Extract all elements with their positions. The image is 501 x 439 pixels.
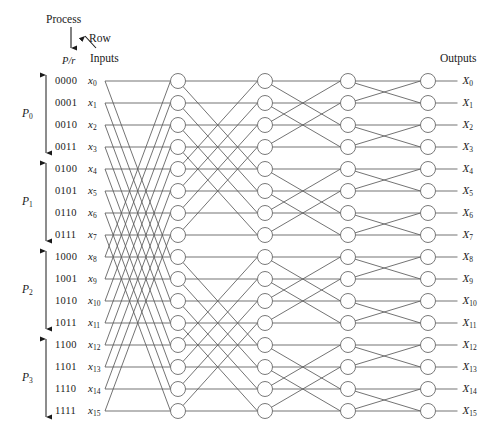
output-index: 11 (469, 321, 476, 330)
switch-node-s1-r1 (258, 96, 273, 111)
switch-node-s0-r9 (171, 272, 186, 287)
input-index: 10 (93, 299, 101, 308)
switch-node-s3-r12 (421, 338, 436, 353)
row-bits-0: 0000 (55, 76, 77, 87)
output-index: 0 (469, 79, 473, 88)
output-label-13: X13 (463, 361, 477, 374)
output-index: 10 (469, 299, 477, 308)
switch-node-s0-r6 (171, 206, 186, 221)
switch-node-s0-r2 (171, 118, 186, 133)
output-index: 5 (469, 189, 473, 198)
switch-node-s1-r9 (258, 272, 273, 287)
switch-node-s1-r5 (258, 184, 273, 199)
switch-node-s0-r15 (171, 404, 186, 419)
output-index: 6 (469, 211, 473, 220)
row-bits-7: 0111 (55, 230, 76, 241)
switch-node-s3-r8 (421, 250, 436, 265)
switch-node-s0-r0 (171, 74, 186, 89)
output-index: 3 (469, 145, 473, 154)
output-label-15: X15 (463, 405, 477, 418)
output-index: 8 (469, 255, 473, 264)
outputs-header: Outputs (440, 53, 476, 65)
output-label-14: X14 (463, 383, 477, 396)
switch-node-s2-r7 (341, 228, 356, 243)
switch-node-s3-r5 (421, 184, 436, 199)
input-label-1: x1 (88, 97, 97, 110)
switch-node-s0-r10 (171, 294, 186, 309)
output-index: 12 (469, 343, 477, 352)
input-label-13: x13 (88, 361, 100, 374)
process-header: Process (46, 14, 81, 26)
switch-node-s2-r14 (341, 382, 356, 397)
input-index: 15 (93, 409, 101, 418)
row-bits-9: 1001 (55, 274, 77, 285)
switch-node-s3-r14 (421, 382, 436, 397)
switch-node-s0-r1 (171, 96, 186, 111)
process-group-letter: P (22, 107, 29, 119)
switch-node-s2-r8 (341, 250, 356, 265)
switch-node-s2-r2 (341, 118, 356, 133)
input-label-10: x10 (88, 295, 100, 308)
switch-node-s1-r0 (258, 74, 273, 89)
switch-node-s2-r6 (341, 206, 356, 221)
switch-node-s2-r13 (341, 360, 356, 375)
switch-node-s2-r9 (341, 272, 356, 287)
switch-node-s3-r0 (421, 74, 436, 89)
process-group-label-3: P3 (22, 372, 33, 385)
input-label-4: x4 (88, 163, 97, 176)
row-header: Row (89, 33, 111, 45)
switch-node-s1-r4 (258, 162, 273, 177)
input-index: 11 (93, 321, 100, 330)
switch-node-s1-r10 (258, 294, 273, 309)
switch-node-s2-r10 (341, 294, 356, 309)
switch-node-s1-r11 (258, 316, 273, 331)
switch-node-s1-r14 (258, 382, 273, 397)
switch-node-s3-r15 (421, 404, 436, 419)
row-bits-4: 0100 (55, 164, 77, 175)
input-label-9: x9 (88, 273, 97, 286)
process-group-index: 2 (29, 288, 33, 297)
switch-node-s3-r6 (421, 206, 436, 221)
output-label-9: X9 (463, 273, 473, 286)
row-bits-6: 0110 (55, 208, 77, 219)
switch-node-s1-r12 (258, 338, 273, 353)
input-index: 4 (93, 167, 97, 176)
inputs-header: Inputs (90, 53, 119, 65)
input-index: 3 (93, 145, 97, 154)
switch-node-s2-r1 (341, 96, 356, 111)
pr-header: P/r (62, 56, 75, 67)
input-label-11: x11 (88, 317, 100, 330)
input-label-5: x5 (88, 185, 97, 198)
switch-node-s3-r7 (421, 228, 436, 243)
output-label-5: X5 (463, 185, 473, 198)
output-label-1: X1 (463, 97, 473, 110)
row-bits-11: 1011 (55, 318, 77, 329)
switch-node-s1-r13 (258, 360, 273, 375)
input-label-3: x3 (88, 141, 97, 154)
output-label-10: X10 (463, 295, 477, 308)
output-label-2: X2 (463, 119, 473, 132)
output-index: 15 (469, 409, 477, 418)
input-label-2: x2 (88, 119, 97, 132)
row-bits-15: 1111 (55, 406, 76, 417)
input-index: 8 (93, 255, 97, 264)
switch-node-s2-r0 (341, 74, 356, 89)
switch-node-s3-r11 (421, 316, 436, 331)
input-index: 5 (93, 189, 97, 198)
output-index: 1 (469, 101, 473, 110)
input-index: 13 (93, 365, 101, 374)
output-label-3: X3 (463, 141, 473, 154)
input-label-7: x7 (88, 229, 97, 242)
input-label-14: x14 (88, 383, 100, 396)
switch-node-s1-r3 (258, 140, 273, 155)
row-bits-13: 1101 (55, 362, 77, 373)
process-group-index: 3 (29, 376, 33, 385)
switch-node-s3-r10 (421, 294, 436, 309)
input-index: 6 (93, 211, 97, 220)
switch-node-s1-r2 (258, 118, 273, 133)
process-group-label-0: P0 (22, 108, 33, 121)
input-index: 12 (93, 343, 101, 352)
switch-node-s0-r7 (171, 228, 186, 243)
input-index: 1 (93, 101, 97, 110)
row-bits-14: 1110 (55, 384, 76, 395)
